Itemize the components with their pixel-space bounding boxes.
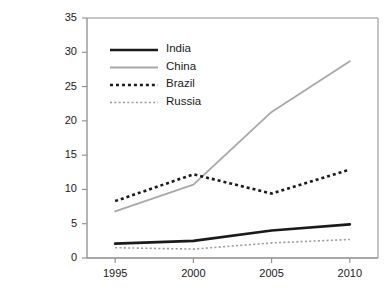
line-chart: 05101520253035 1995200020052010 IndiaChi…	[0, 0, 390, 290]
x-axis-tick-label: 2005	[249, 267, 295, 279]
legend-label-china: China	[166, 60, 196, 72]
legend-label-brazil: Brazil	[166, 77, 195, 89]
y-axis-tick-label: 35	[53, 11, 77, 23]
x-axis-tick-label: 2000	[170, 267, 216, 279]
series-line-russia	[115, 239, 350, 249]
y-axis-tick-label: 10	[53, 182, 77, 194]
y-axis-tick-label: 25	[53, 80, 77, 92]
chart-plot-area	[0, 0, 390, 290]
x-axis-tick-label: 2010	[327, 267, 373, 279]
y-axis-tick-label: 15	[53, 148, 77, 160]
legend-label-india: India	[166, 42, 191, 54]
legend-label-russia: Russia	[166, 95, 201, 107]
y-axis-tick-label: 0	[53, 251, 77, 263]
x-axis-tick-label: 1995	[92, 267, 138, 279]
y-axis-tick-label: 30	[53, 45, 77, 57]
series-line-brazil	[115, 170, 350, 202]
y-axis-tick-label: 5	[53, 217, 77, 229]
y-axis-tick-label: 20	[53, 114, 77, 126]
